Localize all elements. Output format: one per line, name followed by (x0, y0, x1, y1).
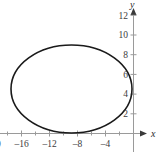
y-tick-label-6: 6 (123, 70, 128, 80)
y-axis-label: y (129, 0, 135, 10)
x-axis-arrow-icon (140, 131, 147, 137)
y-tick-label-10: 10 (119, 30, 129, 40)
x-axis-label: x (150, 128, 156, 139)
y-tick-label-8: 8 (123, 50, 128, 60)
ellipse-curve (11, 45, 132, 133)
graph-figure: –20 –16 –12 –8 –4 12 10 8 6 4 2 x y (0, 0, 160, 152)
ellipse-plot: –20 –16 –12 –8 –4 12 10 8 6 4 2 x y (0, 0, 160, 152)
y-tick-label-2: 2 (123, 109, 128, 119)
x-tick-label-minus-12: –12 (41, 139, 57, 149)
x-tick-label-minus-8: –8 (72, 139, 83, 149)
x-tick-label-minus-20: –20 (0, 139, 1, 149)
x-tick-label-minus-4: –4 (100, 139, 111, 149)
y-tick-label-4: 4 (123, 89, 128, 99)
x-tick-label-minus-16: –16 (13, 139, 29, 149)
y-tick-label-12: 12 (119, 11, 129, 21)
